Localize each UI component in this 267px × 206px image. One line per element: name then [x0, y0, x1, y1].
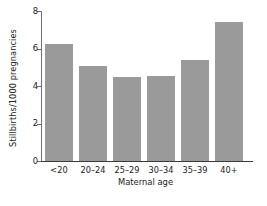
x-tick-label-25-29: 25–29: [113, 165, 141, 175]
x-tick-label-20-24: 20–24: [79, 165, 107, 175]
x-tick-label-35-39: 35–39: [181, 165, 209, 175]
y-tick-label-0: 0: [33, 156, 38, 166]
x-tick-label-30-34: 30–34: [147, 165, 175, 175]
y-tick-label-8: 8: [33, 6, 38, 16]
y-tick-label-6: 6: [33, 43, 38, 53]
y-axis-title-container: Stillbirths/1000 pregnancies: [0, 0, 26, 175]
x-axis-line: [41, 161, 253, 162]
bar-under-20: [45, 44, 73, 161]
x-tick-label-40-plus: 40+: [215, 165, 243, 175]
y-tick-label-4: 4: [33, 81, 38, 91]
plot-area: 0 2 4 6 8 <20 20–24 25–29: [41, 11, 250, 161]
y-axis-line: [41, 11, 42, 161]
bar-25-29: [113, 77, 141, 161]
y-tick-label-2: 2: [33, 118, 38, 128]
y-axis-title: Stillbirths/1000 pregnancies: [8, 29, 18, 147]
bar-chart-figure: Stillbirths/1000 pregnancies 0 2 4 6 8: [0, 0, 267, 206]
x-axis-title: Maternal age: [41, 177, 250, 187]
bar-40-plus: [215, 22, 243, 161]
bar-30-34: [147, 76, 175, 161]
x-tick-label-under-20: <20: [45, 165, 73, 175]
bar-20-24: [79, 66, 107, 161]
bar-35-39: [181, 60, 209, 161]
